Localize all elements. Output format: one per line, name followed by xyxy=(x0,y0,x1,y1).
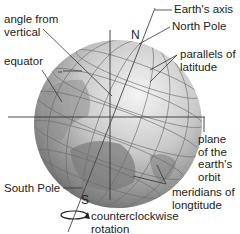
label-n: N xyxy=(131,28,140,42)
label-angle-from-vertical: angle from vertical xyxy=(4,13,58,38)
label-meridians-of-longitude: meridians of longtitude xyxy=(172,186,235,211)
label-counterclockwise-rotation: counterclockwise rotation xyxy=(91,210,179,234)
label-equator: equator xyxy=(4,55,43,68)
label-parallels-of-latitude: parallels of latitude xyxy=(180,48,236,73)
earth-axis-diagram: angle from vertical equator Earth's axis… xyxy=(0,0,240,234)
label-south-pole: South Pole xyxy=(4,182,60,195)
label-north-pole: North Pole xyxy=(172,20,226,33)
label-plane-of-orbit: plane of the earth's orbit xyxy=(198,133,232,183)
label-earths-axis: Earth's axis xyxy=(174,3,233,16)
label-s: S xyxy=(81,193,89,207)
rotation-arrow-icon xyxy=(61,211,87,219)
